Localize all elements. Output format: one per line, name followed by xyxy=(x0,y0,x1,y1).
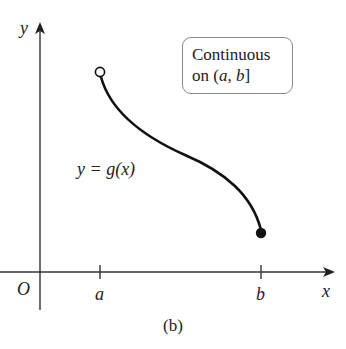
function-graph: y x O a b y = g(x) xyxy=(0,0,346,349)
callout-text: on ( xyxy=(192,66,219,85)
tick-label-b: b xyxy=(256,284,265,304)
curve-label: y = g(x) xyxy=(75,159,135,180)
closed-endpoint-icon xyxy=(256,228,266,238)
callout-text: ] xyxy=(244,66,250,85)
curve-g xyxy=(101,77,261,230)
figure-caption: (b) xyxy=(0,316,346,336)
tick-label-a: a xyxy=(95,284,104,304)
y-axis-label: y xyxy=(18,18,28,38)
callout-line-2: on (a, b] xyxy=(192,65,292,86)
open-endpoint-icon xyxy=(95,67,104,76)
callout-text: , xyxy=(227,66,236,85)
x-axis-label: x xyxy=(321,281,330,301)
origin-label: O xyxy=(17,279,30,299)
continuity-callout: Continuous on (a, b] xyxy=(182,37,293,94)
callout-line-1: Continuous xyxy=(192,44,292,65)
